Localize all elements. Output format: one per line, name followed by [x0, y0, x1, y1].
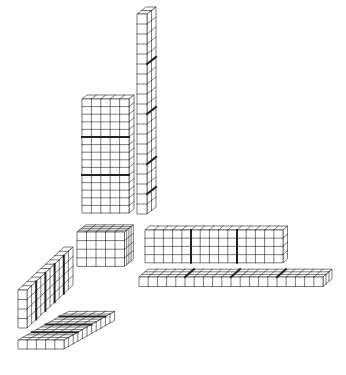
long-bar-block [139, 269, 332, 286]
front-face [18, 340, 64, 349]
tall-slab-block [82, 95, 134, 213]
cube-blocks-figure [0, 0, 346, 375]
front-face [82, 99, 129, 213]
wide-wall-block [145, 226, 288, 263]
top-face [82, 95, 134, 99]
top-face [145, 226, 288, 230]
side-face [129, 95, 134, 213]
background [0, 0, 346, 375]
small-cube-block [77, 225, 133, 267]
tall-column-block [137, 7, 156, 214]
cube-blocks-svg [0, 0, 346, 375]
